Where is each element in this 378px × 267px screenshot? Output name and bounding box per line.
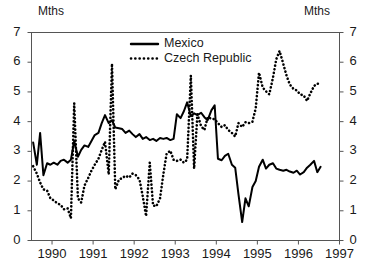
y-tick-label-right: 1	[350, 202, 366, 217]
legend-label-mexico: Mexico	[164, 36, 204, 50]
x-tick-label: 1991	[73, 246, 113, 261]
y-tick-label-right: 2	[350, 172, 366, 187]
legend-label-czech-republic: Czech Republic	[164, 51, 252, 65]
y-tick-label-right: 4	[350, 113, 366, 128]
y-tick-label-left: 7	[5, 24, 21, 39]
x-tick-label: 1994	[196, 246, 236, 261]
y-tick-label-left: 6	[5, 53, 21, 68]
y-tick-label-right: 7	[350, 24, 366, 39]
y-tick-label-right: 3	[350, 142, 366, 157]
y-tick-label-left: 4	[5, 113, 21, 128]
y-tick-label-left: 1	[5, 202, 21, 217]
y-tick-label-right: 6	[350, 53, 366, 68]
y-tick-label-left: 3	[5, 142, 21, 157]
y-tick-label-left: 0	[5, 232, 21, 247]
y-tick-label-left: 2	[5, 172, 21, 187]
data-series-group	[33, 51, 320, 222]
chart-figure: Mths Mths 001122334455667719901991199219…	[0, 0, 378, 267]
legend-marks	[131, 44, 158, 59]
y-tick-label-right: 0	[350, 232, 366, 247]
x-tick-label: 1996	[278, 246, 318, 261]
x-tick-label: 1995	[237, 246, 277, 261]
x-tick-label: 1993	[155, 246, 195, 261]
x-tick-label: 1997	[320, 246, 360, 261]
y-tick-label-left: 5	[5, 83, 21, 98]
x-tick-label: 1992	[114, 246, 154, 261]
y-axis-unit-right: Mths	[304, 4, 330, 18]
x-tick-label: 1990	[32, 246, 72, 261]
y-tick-label-right: 5	[350, 83, 366, 98]
series-line-czech-republic	[33, 51, 320, 218]
y-axis-unit-left: Mths	[38, 4, 64, 18]
